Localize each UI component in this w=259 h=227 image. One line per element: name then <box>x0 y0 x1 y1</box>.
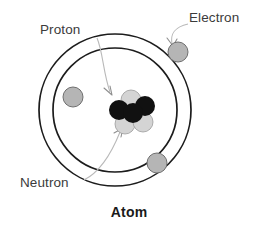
neutron-label: Neutron <box>20 175 69 190</box>
electron-bottom-right <box>147 153 167 173</box>
electron-left <box>63 87 83 107</box>
nucleus-group <box>109 90 155 134</box>
proton-label: Proton <box>40 22 80 37</box>
atom-diagram-figure: Proton Electron Neutron Atom <box>0 0 259 227</box>
figure-caption: Atom <box>111 204 148 220</box>
atom-diagram-canvas: Proton Electron Neutron Atom <box>0 0 259 227</box>
electron-top-right <box>168 42 188 62</box>
electron-leader-line <box>172 24 188 44</box>
proton-leader-line <box>97 38 110 92</box>
electron-label: Electron <box>189 10 239 25</box>
proton-center <box>123 103 143 123</box>
